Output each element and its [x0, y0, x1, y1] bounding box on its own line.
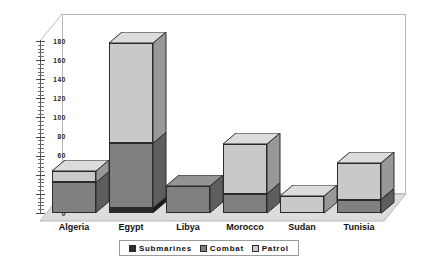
legend-label-combat: Combat [210, 244, 244, 253]
legend-swatch-submarines [129, 245, 136, 252]
x-axis-label-tunisia: Tunisia [329, 222, 389, 232]
legend-swatch-patrol [252, 245, 259, 252]
legend-item: Patrol [252, 244, 289, 253]
legend-swatch-combat [200, 245, 207, 252]
x-axis-label-algeria: Algeria [44, 222, 104, 232]
legend-label-patrol: Patrol [262, 244, 289, 253]
legend-item: Submarines [129, 244, 192, 253]
x-axis-label-libya: Libya [158, 222, 218, 232]
x-axis-label-morocco: Morocco [215, 222, 275, 232]
x-axis-label-egypt: Egypt [101, 222, 161, 232]
bar-segment-front [337, 200, 381, 213]
bar-segment-top [337, 152, 396, 165]
chart-3d-stacked-bar: 180160140120100806040200 AlgeriaEgyptLib… [0, 0, 438, 264]
chart-legend: Submarines Combat Patrol [119, 240, 299, 256]
legend-item: Combat [200, 244, 244, 253]
bar-segment-combat [337, 200, 381, 213]
bar-segment-front [337, 163, 381, 199]
bar-segment-patrol [337, 163, 381, 199]
legend-label-submarines: Submarines [139, 244, 192, 253]
x-axis-label-sudan: Sudan [272, 222, 332, 232]
